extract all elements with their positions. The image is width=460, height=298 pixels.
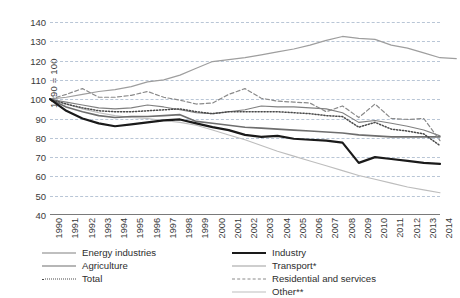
plot-area: 1990 = 100 140130120110100908070605040 1…	[50, 22, 440, 215]
y-axis-tick-label: 120	[30, 55, 46, 66]
y-axis-tick-label: 70	[35, 152, 46, 163]
x-axis-tick-label: 2006	[314, 218, 324, 238]
x-axis-tick-label: 2001	[233, 218, 243, 238]
legend-item-agriculture[interactable]: Agriculture	[42, 259, 232, 272]
x-axis-tick-label: 1995	[135, 218, 145, 238]
legend-item-industry[interactable]: Industry	[232, 246, 452, 259]
x-axis-tick-label: 2012	[412, 218, 422, 238]
x-axis-tick-label: 2003	[265, 218, 275, 238]
legend-label: Agriculture	[82, 259, 128, 272]
y-axis-tick-label: 110	[31, 74, 46, 85]
series-line	[50, 99, 440, 137]
x-axis-tick-label: 1993	[103, 218, 113, 238]
x-axis-tick-label: 1991	[70, 218, 80, 238]
y-axis-tick-label: 60	[35, 171, 46, 182]
x-axis-tick-label: 1998	[184, 218, 194, 238]
legend-item-energy-industries[interactable]: Energy industries	[42, 246, 232, 259]
legend-item-other[interactable]: Other**	[232, 285, 452, 298]
legend-item-residential-and-services[interactable]: Residential and services	[232, 272, 452, 285]
x-axis-tick-label: 2005	[298, 218, 308, 238]
x-axis-tick-label: 1999	[200, 218, 210, 238]
plot-area-wrapper: 1990 = 100 140130120110100908070605040 1…	[0, 0, 460, 228]
legend-item-transport[interactable]: Transport*	[232, 259, 452, 272]
legend-label: Residential and services	[272, 272, 376, 285]
legend-label: Transport*	[272, 259, 316, 272]
x-axis-tick-label: 1997	[168, 218, 178, 238]
series-line	[50, 36, 456, 99]
x-axis-tick-label: 2013	[428, 218, 438, 238]
series-line	[50, 99, 440, 145]
legend-swatch-icon	[232, 261, 266, 270]
legend-label: Energy industries	[82, 246, 156, 259]
x-axis-tick-label: 1992	[87, 218, 97, 238]
legend-swatch-icon	[232, 287, 266, 296]
legend-swatch-icon	[42, 261, 76, 270]
y-axis-tick-label: 100	[30, 94, 46, 105]
x-axis-tick-label: 2008	[347, 218, 357, 238]
legend-item-total[interactable]: Total	[42, 272, 232, 285]
y-axis-tick-label: 140	[30, 17, 46, 28]
y-axis-tick-label: 90	[35, 113, 46, 124]
legend-swatch-icon	[232, 274, 266, 283]
legend-label: Other**	[272, 285, 303, 298]
x-axis-tick-label: 2000	[217, 218, 227, 238]
y-axis-tick-label: 40	[35, 210, 46, 221]
x-axis-tick-label: 2002	[249, 218, 259, 238]
legend-swatch-icon	[232, 248, 266, 257]
x-axis-tick-label: 2010	[379, 218, 389, 238]
x-axis-tick-label: 2011	[395, 218, 405, 238]
x-axis-tick-label: 2009	[363, 218, 373, 238]
legend-swatch-icon	[42, 274, 76, 283]
x-axis-tick-label: 2004	[282, 218, 292, 238]
y-axis-tick-label: 80	[35, 132, 46, 143]
x-axis-tick-label: 1996	[152, 218, 162, 238]
series-line	[50, 99, 440, 193]
y-axis-tick-label: 130	[30, 36, 46, 47]
x-axis-tick-label: 2007	[330, 218, 340, 238]
chart-legend: Energy industriesIndustryAgricultureTran…	[42, 246, 452, 290]
x-axis-tick-label: 1990	[54, 218, 64, 238]
legend-label: Total	[82, 272, 102, 285]
series-lines	[50, 22, 440, 215]
x-axis-tick-label: 2014	[444, 218, 454, 238]
legend-label: Industry	[272, 246, 306, 259]
y-axis-tick-label: 50	[35, 190, 46, 201]
legend-swatch-icon	[42, 248, 76, 257]
x-axis-tick-label: 1994	[119, 218, 129, 238]
legend-spacer	[42, 285, 232, 298]
